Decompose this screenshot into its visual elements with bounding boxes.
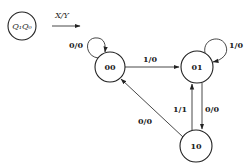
state-00: 00 [95,52,125,82]
legend-state-label: Q₁Q₀ [12,22,32,31]
state-10: 10 [180,130,212,162]
legend-transition-label: X/Y [54,11,69,20]
state-00-label: 00 [104,62,116,72]
transition-10-00-label: 0/0 [138,116,152,126]
transition-01-01-label: 1/0 [229,40,243,50]
state-01-label: 01 [191,62,202,72]
state-01: 01 [181,51,213,83]
transition-10-01-label: 1/1 [173,104,187,114]
state-diagram: Q₁Q₀ X/Y 0/0 1/0 1/0 0/0 1/1 0/0 00 01 1… [0,0,245,165]
transition-00-01-label: 1/0 [143,54,157,64]
transition-01-10-label: 0/0 [205,104,219,114]
transition-00-00-label: 0/0 [69,40,83,50]
state-10-label: 10 [190,141,202,151]
legend: Q₁Q₀ X/Y [8,11,80,40]
